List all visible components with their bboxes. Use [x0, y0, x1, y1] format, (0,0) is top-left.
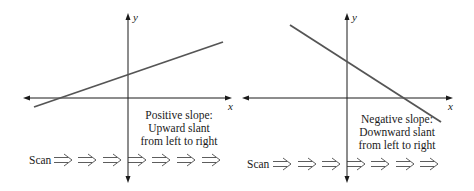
y-axis-down-arrow-icon	[126, 176, 131, 183]
slope-diagram: x y Positive slope: Upward slant from le…	[0, 0, 474, 191]
double-arrow-icon	[103, 154, 121, 166]
x-axis-left-arrow-icon	[23, 96, 30, 101]
caption-line-3: from left to right	[141, 135, 219, 148]
caption-line-3: from left to right	[359, 139, 437, 152]
double-arrow-icon	[202, 154, 220, 166]
x-axis-left-arrow-icon	[242, 96, 249, 101]
double-arrow-icon	[177, 154, 195, 166]
double-arrow-icon	[78, 154, 96, 166]
negative-slope-line	[290, 25, 441, 122]
caption-line-1: Positive slope:	[145, 109, 212, 122]
double-arrow-icon	[396, 158, 414, 170]
caption-line-1: Negative slope:	[361, 113, 433, 126]
panel-negative-slope: x y Negative slope: Downward slant from …	[242, 11, 453, 183]
double-arrow-icon	[298, 158, 316, 170]
y-axis-label: y	[351, 11, 357, 23]
double-arrow-icon	[322, 158, 340, 170]
y-axis-up-arrow-icon	[345, 13, 350, 20]
x-axis-label: x	[447, 100, 453, 112]
double-arrow-icon	[273, 158, 291, 170]
double-arrow-icon	[152, 154, 170, 166]
y-axis-up-arrow-icon	[126, 13, 131, 20]
double-arrow-icon	[54, 154, 72, 166]
scan-arrows	[273, 158, 438, 170]
caption-line-2: Downward slant	[359, 126, 435, 138]
double-arrow-icon	[371, 158, 389, 170]
y-axis-label: y	[132, 11, 138, 23]
scan-label: Scan	[247, 158, 270, 170]
x-axis-label: x	[227, 100, 233, 112]
scan-arrows	[54, 154, 220, 166]
double-arrow-icon	[128, 154, 146, 166]
y-axis-down-arrow-icon	[345, 176, 350, 183]
double-arrow-icon	[347, 158, 365, 170]
caption-line-2: Upward slant	[148, 122, 210, 135]
panel-positive-slope: x y Positive slope: Upward slant from le…	[23, 11, 233, 183]
double-arrow-icon	[420, 158, 438, 170]
scan-label: Scan	[29, 154, 52, 166]
